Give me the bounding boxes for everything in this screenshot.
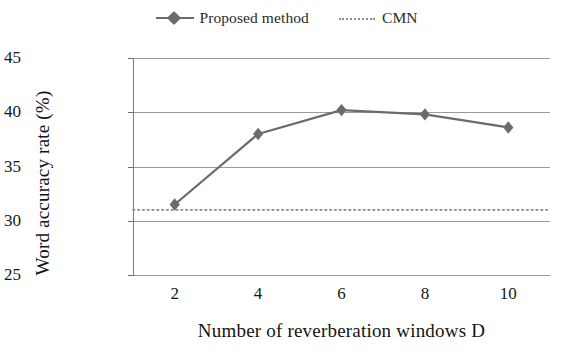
series-line-proposed-method xyxy=(175,110,509,204)
x-tick-label-2: 2 xyxy=(155,284,195,304)
data-point-marker-x-10 xyxy=(503,121,513,133)
y-tick-label-30: 30 xyxy=(0,211,21,231)
legend-key-dotted-line-icon xyxy=(339,12,377,24)
gridline-y-25 xyxy=(133,275,550,276)
legend-entry-proposed-method: Proposed method xyxy=(156,9,309,27)
x-tick-label-4: 4 xyxy=(238,284,278,304)
plot-area xyxy=(133,58,550,275)
legend-key-line-with-diamond-marker-icon xyxy=(156,12,194,24)
x-tick-label-6: 6 xyxy=(322,284,362,304)
data-point-marker-x-8 xyxy=(420,108,430,120)
y-tick-label-45: 45 xyxy=(0,48,21,68)
chart-legend: Proposed method CMN xyxy=(0,7,574,29)
legend-entry-cmn: CMN xyxy=(339,9,418,27)
x-tick-label-8: 8 xyxy=(405,284,445,304)
data-point-marker-x-6 xyxy=(336,104,346,116)
y-tick-label-35: 35 xyxy=(0,157,21,177)
y-tick-mark-25 xyxy=(128,275,134,276)
x-axis-title: Number of reverberation windows D xyxy=(133,320,550,342)
figure-chart-word-accuracy-vs-reverberation-windows: Proposed method CMN Word accuracy rate (… xyxy=(0,0,574,357)
x-tick-label-10: 10 xyxy=(488,284,528,304)
legend-label-cmn: CMN xyxy=(382,9,418,27)
y-tick-label-40: 40 xyxy=(0,102,21,122)
y-tick-label-25: 25 xyxy=(0,265,21,285)
data-series-layer xyxy=(133,58,550,275)
y-axis-title: Word accuracy rate (%) xyxy=(32,58,54,308)
legend-label-proposed-method: Proposed method xyxy=(199,9,309,27)
